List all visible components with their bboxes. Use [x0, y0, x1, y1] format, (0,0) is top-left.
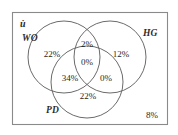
region-value-wo-hg: 2% — [81, 39, 94, 49]
region-value-wo-only: 22% — [44, 49, 61, 59]
universal-set-symbol: ù — [20, 18, 26, 29]
set-label-wo: WO — [22, 33, 38, 43]
venn-diagram-canvas: ù WO HG PD 22% 2% 12% 0% 34% 0% 22% 8% — [0, 0, 178, 135]
region-value-hg-pd: 0% — [100, 73, 113, 83]
region-value-pd-only: 22% — [80, 91, 97, 101]
set-label-hg: HG — [142, 28, 158, 38]
region-value-wo-pd: 34% — [62, 73, 79, 83]
region-value-outside: 8% — [146, 110, 159, 120]
region-value-hg-only: 12% — [113, 49, 130, 59]
venn-diagram-figure: ù WO HG PD 22% 2% 12% 0% 34% 0% 22% 8% — [0, 0, 178, 135]
region-value-wo-hg-pd: 0% — [81, 57, 94, 67]
set-label-pd: PD — [46, 105, 59, 115]
